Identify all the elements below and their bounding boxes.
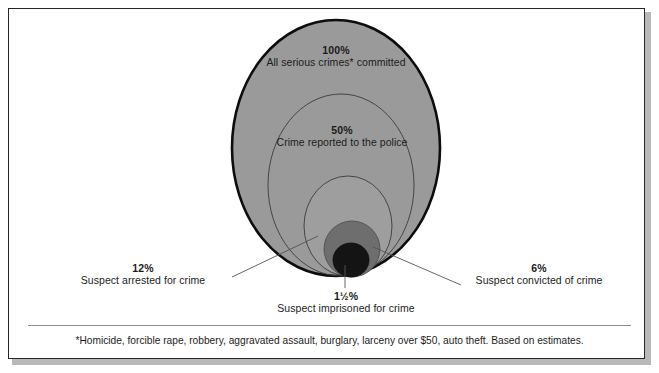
figure-root: 100% All serious crimes* committed 50% C…	[0, 0, 659, 373]
label-total: 100% All serious crimes* committed	[236, 44, 436, 69]
leader-line-convicted	[373, 247, 461, 285]
label-imprisoned-pct: 1½%	[256, 290, 436, 302]
label-convicted-desc: Suspect convicted of crime	[464, 274, 614, 286]
label-reported: 50% Crime reported to the police	[256, 124, 428, 149]
label-imprisoned-desc: Suspect imprisoned for crime	[256, 302, 436, 314]
label-total-pct: 100%	[236, 44, 436, 56]
label-arrested: 12% Suspect arrested for crime	[58, 262, 228, 287]
label-convicted-pct: 6%	[464, 262, 614, 274]
label-imprisoned: 1½% Suspect imprisoned for crime	[256, 290, 436, 315]
label-imprisoned-pct-fraction: ½	[340, 290, 349, 302]
label-convicted: 6% Suspect convicted of crime	[464, 262, 614, 287]
label-reported-pct: 50%	[256, 124, 428, 136]
label-imprisoned-pct-percent: %	[349, 290, 358, 302]
circle-imprisoned-1-5	[333, 243, 369, 277]
label-arrested-pct: 12%	[58, 262, 228, 274]
footnote: *Homicide, forcible rape, robbery, aggra…	[0, 335, 659, 346]
label-reported-desc: Crime reported to the police	[256, 136, 428, 148]
footnote-divider	[28, 325, 631, 326]
label-total-desc: All serious crimes* committed	[236, 56, 436, 68]
label-arrested-desc: Suspect arrested for crime	[58, 274, 228, 286]
diagram-canvas: 100% All serious crimes* committed 50% C…	[0, 0, 659, 373]
